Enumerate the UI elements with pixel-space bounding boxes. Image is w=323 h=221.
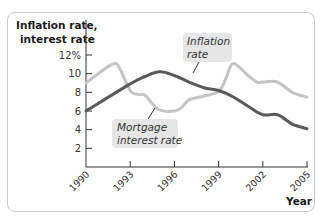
y-tick-label: 6 [75,106,81,117]
x-tick-label: 2005 [288,169,313,194]
annotation-mortgage-line2: interest rate [117,134,182,146]
x-tick-label: 1993 [111,169,136,194]
y-tick-label: 8 [75,87,81,98]
y-tick-label: 12% [59,50,81,61]
x-tick-label: 1996 [155,169,180,194]
y-tick-label: 4 [75,124,81,135]
x-tick-label: 2002 [243,169,268,194]
annotation-mortgage-interest-rate: Mortgage interest rate [112,108,182,148]
y-axis-label-line1: Inflation rate, [16,19,98,31]
annotation-inflation-line2: rate [187,48,208,60]
x-tick-label: 1990 [67,169,92,194]
annotation-pointer [148,108,155,119]
line-chart: Inflation rate, interest rate 24681012% … [0,0,323,221]
x-tick-label: 1999 [199,169,224,194]
y-ticks: 24681012% [59,50,92,154]
x-ticks: 199019931996199920022005 [67,161,313,194]
y-tick-label: 10 [68,68,81,79]
annotation-inflation-rate: Inflation rate [183,33,232,73]
annotation-inflation-line1: Inflation [187,35,230,47]
mortgage-interest-rate-line [86,63,307,111]
annotation-pointer [193,62,199,73]
x-axis-label: Year [285,195,313,207]
y-tick-label: 2 [75,143,81,154]
annotation-mortgage-line1: Mortgage [117,121,167,133]
y-axis-label-line2: interest rate [20,33,95,45]
